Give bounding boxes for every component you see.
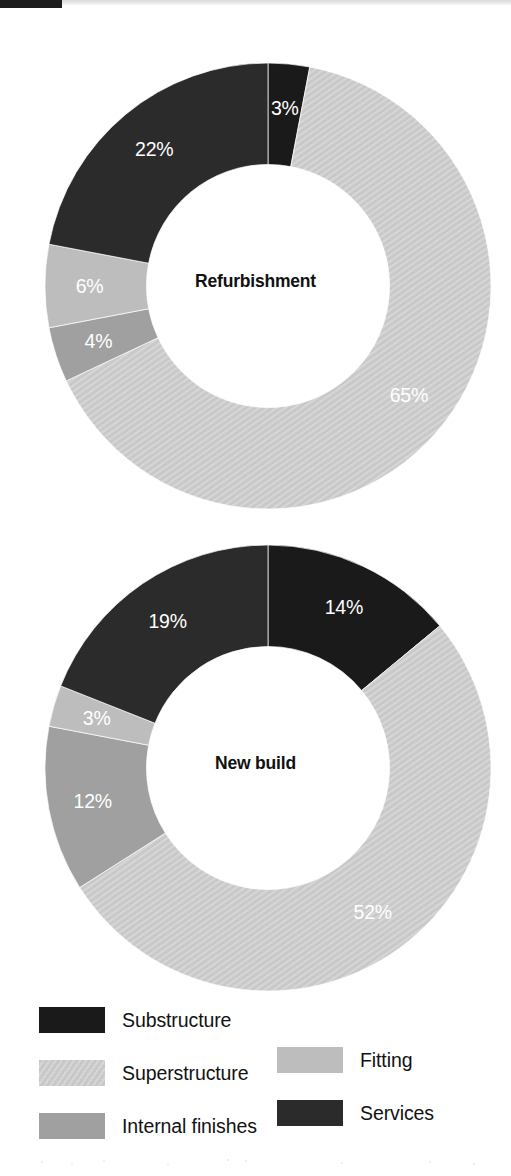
legend-swatch-substructure [39,1007,105,1033]
donut-chart-refurbishment: 3%65%4%6%22% Refurbishment [0,56,511,526]
scan-speckle-artifact [0,1152,511,1176]
legend-item-fitting[interactable]: Fitting [277,1046,497,1074]
donut-slice-label-services: 19% [148,610,186,632]
scan-black-bar [0,0,62,8]
legend-label-internal-finishes: Internal finishes [122,1115,257,1138]
donut-slice-label-services: 22% [135,138,173,160]
legend-item-superstructure[interactable]: Superstructure [39,1059,289,1087]
legend-label-services: Services [360,1102,434,1125]
donut-center-label-newbuild: New build [0,753,511,774]
legend-label-superstructure: Superstructure [122,1062,249,1085]
legend-swatch-fitting [277,1047,343,1073]
legend-swatch-services [277,1100,343,1126]
donut-chart-newbuild: 14%52%12%3%19% New build [0,538,511,1008]
donut-slice-label-internal-finishes: 12% [74,790,112,812]
scan-gray-bar [62,0,511,5]
legend-item-services[interactable]: Services [277,1099,497,1127]
donut-slice-label-superstructure: 52% [354,901,392,923]
donut-slice-label-fitting: 3% [83,707,111,729]
legend-swatch-superstructure [39,1060,105,1086]
donut-slice-services[interactable] [49,63,268,263]
donut-slice-label-superstructure: 65% [390,384,428,406]
donut-slice-label-substructure: 14% [325,596,363,618]
donut-center-label-refurbishment: Refurbishment [0,271,511,292]
donut-slice-label-substructure: 3% [271,97,299,119]
legend-item-substructure[interactable]: Substructure [39,1006,289,1034]
donut-slice-label-internal-finishes: 4% [85,330,113,352]
scan-edge-artifact [0,0,511,9]
legend-item-internal-finishes[interactable]: Internal finishes [39,1112,289,1140]
legend-column-left: SubstructureSuperstructureInternal finis… [39,1006,289,1165]
legend-swatch-internal-finishes [39,1113,105,1139]
chart-legend: SubstructureSuperstructureInternal finis… [0,1006,511,1136]
legend-column-right: FittingServices [277,1006,497,1152]
legend-label-substructure: Substructure [122,1009,231,1032]
donut-slice-services[interactable] [61,545,268,723]
legend-label-fitting: Fitting [360,1049,412,1072]
